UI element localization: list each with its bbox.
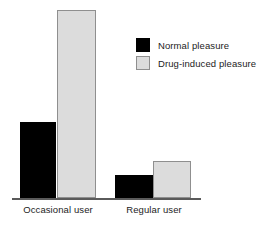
x-axis-label-regular-user: Regular user: [118, 204, 190, 215]
bar-occasional-user-normal-pleasure: [20, 122, 56, 198]
legend-label-normal-pleasure: Normal pleasure: [158, 40, 229, 51]
legend-swatch-drug-induced-pleasure: [136, 56, 150, 70]
legend-item-normal-pleasure: Normal pleasure: [136, 36, 256, 54]
legend: Normal pleasure Drug-induced pleasure: [136, 36, 256, 72]
legend-label-drug-induced-pleasure: Drug-induced pleasure: [158, 58, 256, 69]
legend-swatch-normal-pleasure: [136, 38, 150, 52]
bar-occasional-user-drug-induced-pleasure: [57, 10, 96, 198]
x-axis-label-occasional-user: Occasional user: [18, 204, 98, 215]
bar-regular-user-normal-pleasure: [115, 175, 153, 198]
x-axis-line: [12, 198, 201, 200]
bar-chart: Occasional user Regular user Normal plea…: [0, 0, 276, 226]
plot-area: Occasional user Regular user: [0, 0, 276, 226]
legend-item-drug-induced-pleasure: Drug-induced pleasure: [136, 54, 256, 72]
bar-regular-user-drug-induced-pleasure: [153, 161, 191, 198]
